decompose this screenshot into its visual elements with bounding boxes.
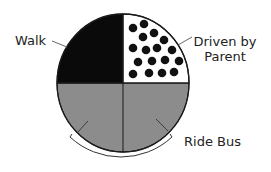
slice-walk (57, 14, 123, 83)
label-walk: Walk (15, 33, 47, 48)
label-driven-line2: Parent (204, 49, 246, 64)
walk-leader (52, 41, 67, 47)
driven-leader (178, 37, 192, 45)
pie-chart: Walk Driven by Parent Ride Bus (0, 0, 271, 172)
label-driven-line1: Driven by (194, 34, 257, 49)
label-ride-bus: Ride Bus (184, 134, 241, 149)
